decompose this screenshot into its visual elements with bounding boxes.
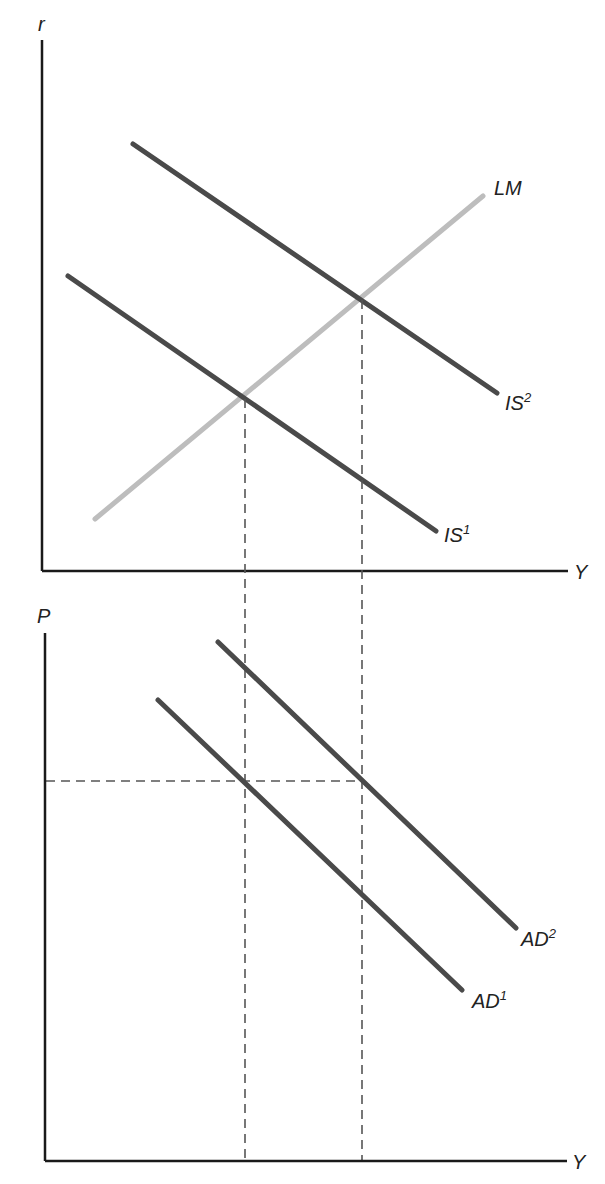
is2-label: IS2 [505, 390, 532, 414]
bottom-x-axis-label: Y [572, 1151, 587, 1173]
top-panel: r Y LM IS2 IS1 [38, 13, 589, 583]
top-x-axis-label: Y [574, 561, 589, 583]
top-y-axis-label: r [38, 13, 46, 35]
is-lm-ad-diagram: r Y LM IS2 IS1 P Y AD2 AD1 [0, 0, 605, 1184]
ad1-curve [158, 700, 462, 990]
bottom-y-axis-label: P [37, 605, 51, 627]
bottom-panel: P Y AD2 AD1 [37, 605, 587, 1173]
is2-curve [133, 144, 497, 393]
ad2-curve [218, 642, 516, 928]
ad1-label: AD1 [471, 988, 507, 1012]
is1-label: IS1 [444, 522, 470, 546]
lm-curve [95, 196, 483, 519]
lm-label: LM [494, 177, 522, 199]
ad2-label: AD2 [520, 926, 557, 950]
